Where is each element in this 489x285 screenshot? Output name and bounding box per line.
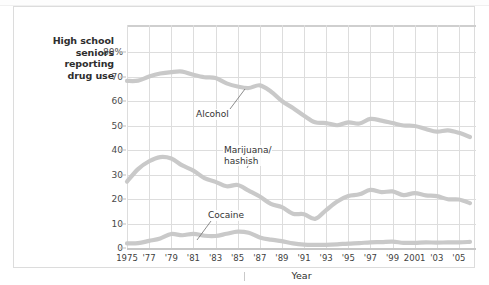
y-tick-mark <box>120 76 126 77</box>
x-tick-label: '03 <box>430 253 443 263</box>
leader-line-alcohol <box>230 89 245 109</box>
annotation-cocaine: Cocaine <box>207 210 245 221</box>
annotation-marijuana: Marijuana/ hashish <box>223 145 272 166</box>
x-tick-label: 2001 <box>404 253 426 263</box>
x-tick-label: '93 <box>320 253 333 263</box>
y-axis-caption: High school seniors reporting drug use <box>22 35 114 81</box>
x-tick-label: '81 <box>187 253 200 263</box>
x-tick-label: '77 <box>143 253 156 263</box>
annotation-leader-lines <box>127 25 476 249</box>
chart-figure: High school seniors reporting drug use 0… <box>0 0 489 285</box>
y-tick-mark <box>120 223 126 224</box>
x-tick-label: '89 <box>275 253 288 263</box>
chart-card: High school seniors reporting drug use 0… <box>13 6 475 268</box>
y-tick-mark <box>120 174 126 175</box>
x-tick-label: '87 <box>253 253 266 263</box>
x-tick-label: '79 <box>165 253 178 263</box>
leader-line-cocaine <box>197 221 211 240</box>
x-tick-label: '05 <box>452 253 465 263</box>
x-tick-label: '95 <box>342 253 355 263</box>
y-tick-mark <box>120 52 126 53</box>
x-tick-label: 1975 <box>116 253 138 263</box>
x-tick-label: '99 <box>386 253 399 263</box>
y-tick-mark <box>120 199 126 200</box>
x-tick-label: '91 <box>297 253 310 263</box>
y-tick-mark <box>120 248 126 249</box>
y-tick-mark <box>120 150 126 151</box>
plot-area: 01020304050607080% 1975'77'79'81'83'85'8… <box>127 25 476 249</box>
y-tick-mark <box>120 101 126 102</box>
x-tick-label: '97 <box>364 253 377 263</box>
x-tick-label: '83 <box>209 253 222 263</box>
y-tick-mark <box>120 125 126 126</box>
x-axis-title: Year <box>127 270 476 281</box>
annotation-alcohol: Alcohol <box>195 109 230 120</box>
x-tick-label: '85 <box>231 253 244 263</box>
